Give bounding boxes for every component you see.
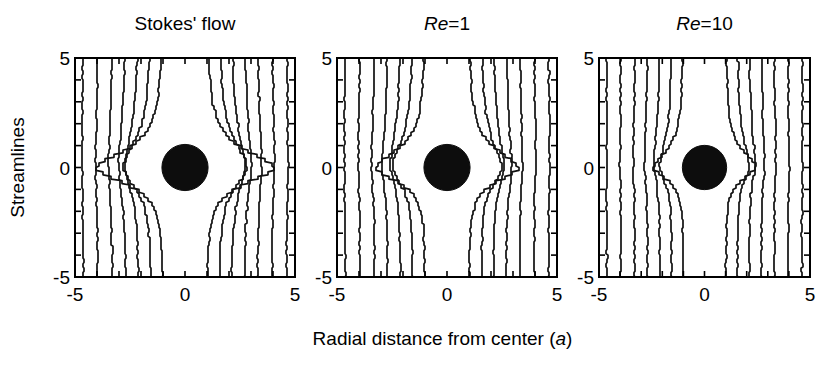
ytick-label: 5: [321, 48, 332, 69]
streamline: [344, 58, 346, 277]
streamline: [644, 58, 648, 277]
streamline: [371, 58, 375, 277]
obstacle-disk: [424, 144, 470, 190]
streamline-figure: Stokes' flow50-5-505Re=150-5-505Re=1050-…: [0, 0, 835, 365]
panel-group: [75, 58, 810, 277]
xtick-label: 0: [442, 284, 453, 305]
streamline: [659, 58, 672, 277]
panel-re10: [599, 58, 810, 277]
streamline: [801, 58, 803, 277]
streamline: [774, 58, 776, 277]
ytick-label: 0: [321, 158, 332, 179]
xtick-label: 5: [290, 284, 301, 305]
panel-title-re1: Re=1: [424, 13, 470, 34]
streamline: [125, 58, 139, 277]
streamline: [761, 58, 765, 277]
streamline: [534, 58, 536, 277]
xtick-label: 5: [552, 284, 563, 305]
streamline: [506, 58, 512, 277]
streamline: [358, 58, 360, 277]
streamline: [633, 58, 635, 277]
streamline: [606, 58, 608, 277]
obstacle-disk: [162, 144, 208, 190]
xtick-label: -5: [329, 284, 346, 305]
panel-stokes: [75, 58, 295, 277]
streamline: [108, 58, 113, 277]
streamline: [272, 58, 275, 277]
ytick-label: 5: [59, 48, 70, 69]
streamline: [82, 58, 84, 277]
streamline: [257, 58, 262, 277]
xtick-label: 0: [699, 284, 710, 305]
streamline: [96, 58, 163, 277]
streamline: [231, 58, 245, 277]
streamline: [390, 58, 401, 277]
xtick-label: 5: [805, 284, 816, 305]
xtick-label: -5: [591, 284, 608, 305]
ytick-label: 0: [583, 158, 594, 179]
streamline: [123, 58, 151, 277]
obstacle-disk: [682, 145, 726, 189]
panel-title-re10: Re=10: [676, 13, 733, 34]
y-axis-label: Streamlines: [7, 117, 28, 217]
ytick-label: 5: [583, 48, 594, 69]
streamline: [788, 58, 790, 277]
streamline: [520, 58, 523, 277]
panel-re1: [337, 58, 557, 277]
streamline: [548, 58, 550, 277]
streamline: [481, 58, 502, 277]
streamline: [207, 58, 274, 277]
xtick-label: -5: [67, 284, 84, 305]
x-axis-label: Radial distance from center (a): [313, 328, 573, 349]
streamline: [286, 58, 289, 277]
xtick-label: 0: [180, 284, 191, 305]
streamline: [393, 58, 413, 277]
streamline: [382, 58, 388, 277]
streamline: [619, 58, 621, 277]
ytick-label: 0: [59, 158, 70, 179]
panel-title-stokes: Stokes' flow: [135, 13, 236, 34]
streamline: [749, 58, 756, 277]
streamline: [737, 58, 749, 277]
